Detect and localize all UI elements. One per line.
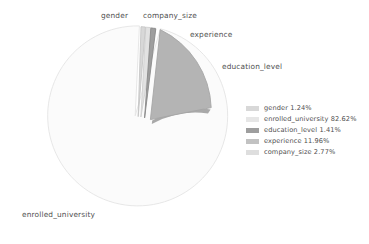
legend-label-gender: gender 1.24% [264, 104, 312, 112]
chart-legend: gender 1.24% enrolled_university 82.62% … [246, 101, 356, 161]
pie-label-enrolled-university: enrolled_university [22, 210, 95, 219]
legend-label-company-size: company_size 2.77% [264, 148, 335, 156]
pie-label-company-size: company_size [143, 11, 197, 20]
pie-slice-enrolled-university[interactable] [48, 26, 228, 206]
pie-label-education-level: education_level [222, 62, 282, 71]
legend-swatch-experience [246, 139, 259, 144]
legend-swatch-education-level [246, 128, 259, 133]
pie-label-experience: experience [190, 30, 232, 39]
pie-label-gender: gender [101, 11, 128, 20]
legend-item-gender[interactable]: gender 1.24% [246, 103, 356, 113]
legend-item-experience[interactable]: experience 11.96% [246, 136, 356, 146]
legend-item-enrolled-university[interactable]: enrolled_university 82.62% [246, 114, 356, 124]
legend-swatch-gender [246, 106, 259, 111]
legend-label-enrolled-university: enrolled_university 82.62% [264, 115, 357, 123]
legend-label-education-level: education_level 1.41% [264, 126, 341, 134]
legend-item-education-level[interactable]: education_level 1.41% [246, 125, 356, 135]
chart-figure: gender company_size experience education… [0, 0, 369, 244]
legend-swatch-company-size [246, 150, 259, 155]
legend-swatch-enrolled-university [246, 117, 259, 122]
legend-label-experience: experience 11.96% [264, 137, 329, 145]
legend-item-company-size[interactable]: company_size 2.77% [246, 147, 356, 157]
pie-slice-experience[interactable] [150, 30, 211, 120]
